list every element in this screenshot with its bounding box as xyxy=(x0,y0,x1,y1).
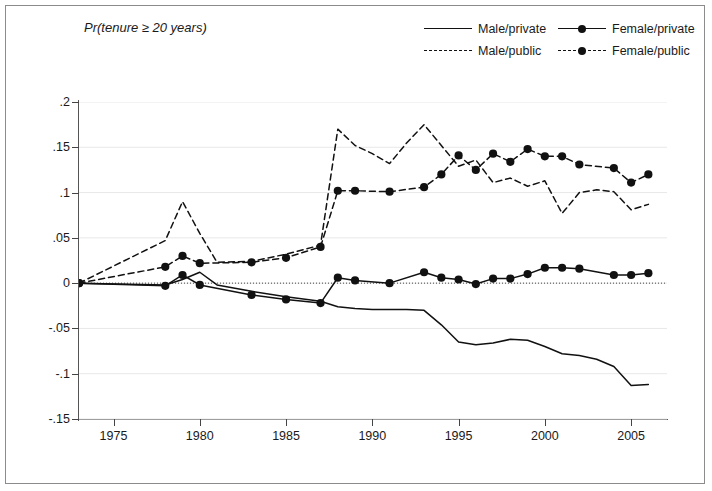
x-axis-tick-label: 1995 xyxy=(445,429,473,443)
legend-item-female-private: Female/private xyxy=(558,22,704,36)
y-axis-tick-mark xyxy=(72,374,79,375)
chart-title: Pr(tenure ≥ 20 years) xyxy=(84,20,207,35)
x-axis-tick-label: 1985 xyxy=(272,429,300,443)
data-point-marker xyxy=(420,268,428,276)
legend-item-female-public: Female/public xyxy=(558,44,704,58)
data-point-marker xyxy=(282,254,290,262)
data-point-marker xyxy=(437,170,445,178)
data-point-marker xyxy=(575,265,583,273)
data-point-marker xyxy=(454,275,462,283)
x-axis-tick-mark xyxy=(114,419,115,426)
y-axis-tick-mark xyxy=(72,328,79,329)
data-point-marker xyxy=(472,166,480,174)
x-axis-tick-mark xyxy=(286,419,287,426)
data-point-marker xyxy=(161,263,169,271)
legend-label: Male/private xyxy=(478,22,546,36)
x-axis-tick-label: 2005 xyxy=(617,429,645,443)
y-axis-tick-label: .2 xyxy=(60,95,70,109)
chart-legend: Male/private Female/private Male/public … xyxy=(424,18,704,62)
y-axis-tick-mark xyxy=(72,193,79,194)
data-point-marker xyxy=(196,281,204,289)
data-point-marker xyxy=(247,258,255,266)
data-point-marker xyxy=(178,271,186,279)
y-axis-tick-mark xyxy=(72,147,79,148)
data-point-marker xyxy=(351,187,359,195)
series-line-male-public xyxy=(79,125,648,284)
data-point-marker xyxy=(161,282,169,290)
data-point-marker xyxy=(196,259,204,267)
data-point-marker xyxy=(454,151,462,159)
y-axis-tick-label: 0 xyxy=(63,276,70,290)
data-point-marker xyxy=(558,264,566,272)
line-dashed-marker-icon xyxy=(558,45,606,57)
data-point-marker xyxy=(523,145,531,153)
data-point-marker xyxy=(316,243,324,251)
data-point-marker xyxy=(420,183,428,191)
x-axis-tick-mark xyxy=(631,419,632,426)
chart-frame: Pr(tenure ≥ 20 years) Male/private Femal… xyxy=(5,5,705,484)
data-point-marker xyxy=(541,152,549,160)
line-solid-icon xyxy=(424,23,472,35)
data-point-marker xyxy=(506,275,514,283)
x-axis-tick-label: 2000 xyxy=(531,429,559,443)
legend-label: Female/private xyxy=(612,22,695,36)
y-axis-tick-label: -.15 xyxy=(48,412,70,426)
legend-item-male-public: Male/public xyxy=(424,44,558,58)
legend-label: Female/public xyxy=(612,44,690,58)
x-axis-tick-mark xyxy=(545,419,546,426)
data-point-marker xyxy=(575,160,583,168)
data-point-marker xyxy=(610,271,618,279)
plot-area: .2.15.1.050-.05-.1-.15197519801985199019… xyxy=(79,102,657,419)
legend-item-male-private: Male/private xyxy=(424,22,558,36)
data-point-marker xyxy=(316,299,324,307)
data-point-marker xyxy=(334,274,342,282)
y-axis-tick-label: .05 xyxy=(53,231,70,245)
data-point-marker xyxy=(282,295,290,303)
x-axis-tick-mark xyxy=(459,419,460,426)
data-point-marker xyxy=(523,270,531,278)
data-point-marker xyxy=(506,158,514,166)
x-axis-tick-label: 1980 xyxy=(186,429,214,443)
data-point-marker xyxy=(437,274,445,282)
data-point-marker xyxy=(627,179,635,187)
y-axis-tick-label: -.1 xyxy=(55,367,70,381)
data-point-marker xyxy=(178,252,186,260)
data-point-marker xyxy=(385,188,393,196)
y-axis-tick-mark xyxy=(72,102,79,103)
series-canvas xyxy=(79,102,669,422)
data-point-marker xyxy=(627,271,635,279)
x-axis-tick-label: 1990 xyxy=(358,429,386,443)
x-axis-tick-label: 1975 xyxy=(100,429,128,443)
y-axis-tick-mark xyxy=(72,419,79,420)
line-solid-marker-icon xyxy=(558,23,606,35)
data-point-marker xyxy=(351,276,359,284)
data-point-marker xyxy=(489,275,497,283)
data-point-marker xyxy=(472,280,480,288)
data-point-marker xyxy=(385,279,393,287)
y-axis-tick-label: .15 xyxy=(53,140,70,154)
x-axis-tick-mark xyxy=(372,419,373,426)
data-point-marker xyxy=(644,269,652,277)
data-point-marker xyxy=(334,187,342,195)
data-point-marker xyxy=(541,264,549,272)
data-point-marker xyxy=(644,170,652,178)
data-point-marker xyxy=(558,152,566,160)
y-axis-tick-label: .1 xyxy=(60,186,70,200)
data-point-marker xyxy=(79,279,83,287)
y-axis-tick-mark xyxy=(72,238,79,239)
x-axis-tick-mark xyxy=(200,419,201,426)
y-axis-tick-mark xyxy=(72,283,79,284)
line-dashed-icon xyxy=(424,45,472,57)
y-axis-tick-label: -.05 xyxy=(48,321,70,335)
data-point-marker xyxy=(489,150,497,158)
legend-label: Male/public xyxy=(478,44,541,58)
data-point-marker xyxy=(610,164,618,172)
data-point-marker xyxy=(247,291,255,299)
